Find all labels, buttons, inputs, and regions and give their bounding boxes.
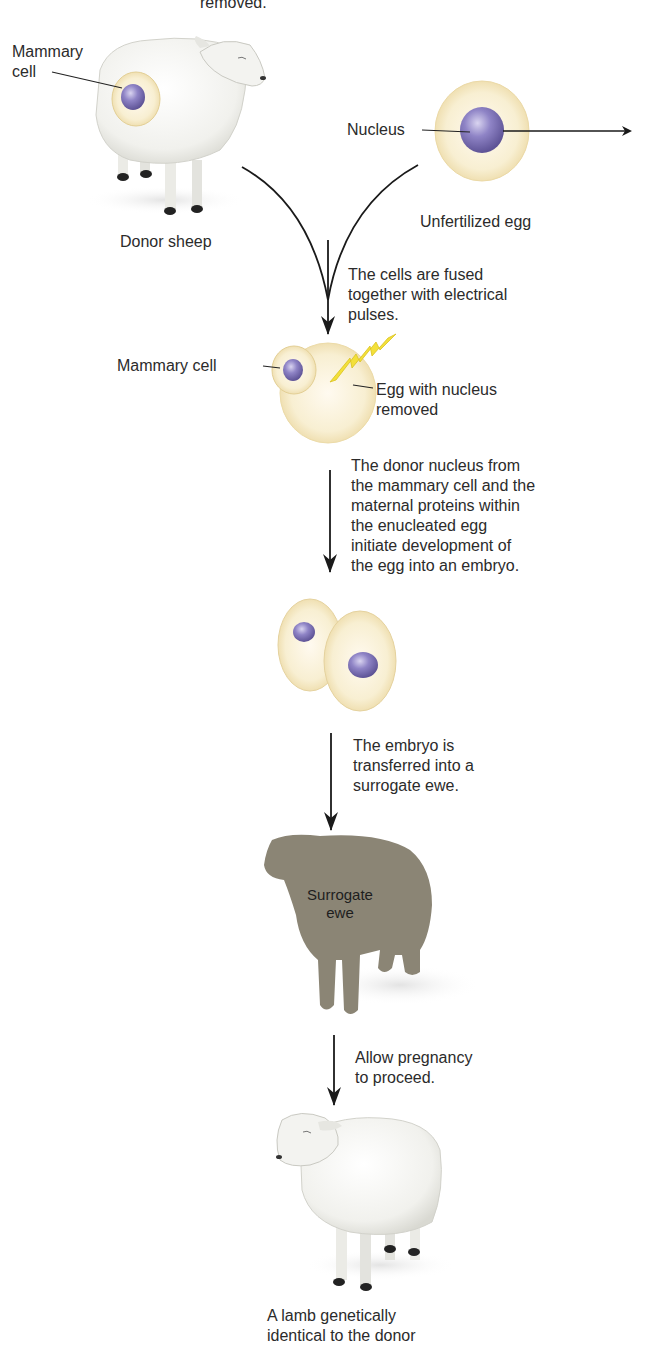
unfertilized-egg-label: Unfertilized egg <box>420 212 531 232</box>
step-1-text: The cells are fused together with electr… <box>348 265 507 325</box>
embryo-two-cell-illustration <box>278 599 396 711</box>
donor-sheep-illustration <box>85 36 266 215</box>
cloned-lamb-illustration <box>276 1113 455 1291</box>
step-3-text: The embryo is transferred into a surroga… <box>353 736 474 796</box>
merge-curve-left <box>242 167 328 300</box>
diagram-graphics <box>0 0 647 1349</box>
step-4-text: Allow pregnancy to proceed. <box>355 1048 472 1088</box>
donor-sheep-label: Donor sheep <box>120 232 212 252</box>
mammary-cell-fused-label: Mammary cell <box>117 356 217 376</box>
mammary-cell-label: Mammary cell <box>12 42 83 82</box>
egg-nucleus-removed-label: Egg with nucleus removed <box>376 380 497 420</box>
result-lamb-label: A lamb genetically identical to the dono… <box>267 1306 416 1346</box>
top-cut-label: removed. <box>200 0 267 13</box>
step-2-text: The donor nucleus from the mammary cell … <box>351 456 535 576</box>
nucleus-label: Nucleus <box>347 120 405 140</box>
surrogate-ewe-label: Surrogate ewe <box>300 886 380 922</box>
surrogate-ewe-illustration <box>264 835 480 1014</box>
